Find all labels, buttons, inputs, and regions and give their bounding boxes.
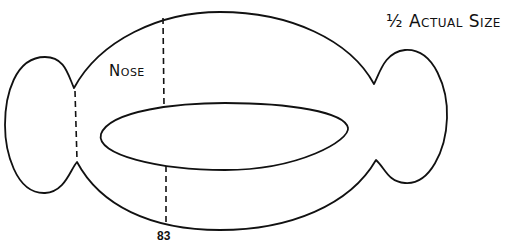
scale-title: ½ Actual Size: [386, 13, 501, 30]
measurement-label: 83: [157, 230, 170, 242]
inner-opening: [101, 103, 348, 170]
nose-label: Nose: [109, 64, 145, 79]
left-fold-line: [75, 91, 77, 160]
pattern-diagram: [0, 0, 519, 245]
nose-guide-upper: [163, 18, 164, 106]
outer-outline: [5, 12, 447, 230]
